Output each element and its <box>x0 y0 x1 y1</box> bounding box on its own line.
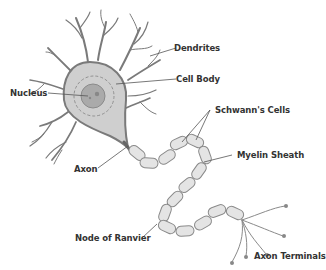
label-axon: Axon <box>74 164 98 174</box>
myelin-sheath <box>127 133 245 237</box>
label-dendrites: Dendrites <box>174 43 220 53</box>
label-schwanns-cells: Schwann's Cells <box>215 105 290 115</box>
label-axon-terminals: Axon Terminals <box>254 251 326 261</box>
label-myelin-sheath: Myelin Sheath <box>237 150 304 160</box>
label-nucleus: Nucleus <box>10 88 47 98</box>
label-cell-body: Cell Body <box>176 74 220 84</box>
nucleolus-small <box>89 97 91 99</box>
label-node-of-ranvier: Node of Ranvier <box>75 233 151 243</box>
nucleolus <box>95 92 99 96</box>
